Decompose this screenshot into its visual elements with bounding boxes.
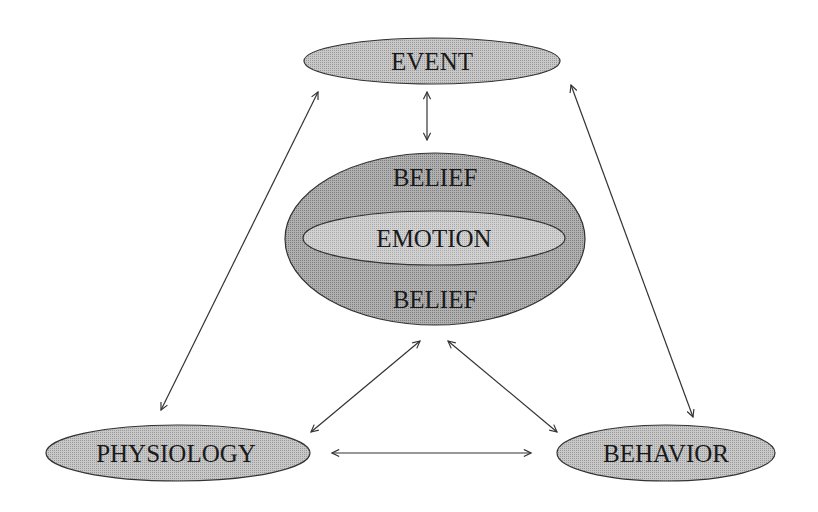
arrow-event-behavior (571, 85, 693, 417)
node-emotion: EMOTION (303, 211, 565, 265)
belief-bottom-label: BELIEF (393, 286, 478, 313)
behavior-label: BEHAVIOR (603, 440, 729, 467)
arrow-belief-physiology (311, 341, 420, 432)
physiology-label: PHYSIOLOGY (96, 440, 256, 467)
diagram-canvas: EVENT BELIEF BELIEF EMOTION PHYSIOLOGY B… (0, 0, 818, 512)
node-event: EVENT (304, 38, 560, 84)
node-physiology: PHYSIOLOGY (46, 425, 310, 481)
arrow-belief-behavior (448, 341, 557, 432)
node-behavior: BEHAVIOR (557, 425, 775, 481)
diagram-svg: EVENT BELIEF BELIEF EMOTION PHYSIOLOGY B… (0, 0, 818, 512)
belief-top-label: BELIEF (393, 164, 478, 191)
event-label: EVENT (391, 48, 473, 75)
emotion-label: EMOTION (376, 225, 491, 252)
